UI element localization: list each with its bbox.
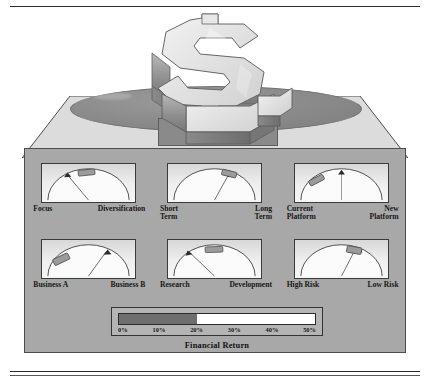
legend-tick-labels: 0% 10% 20% 30% 40% 50% [118, 326, 316, 333]
legend-tick: 40% [266, 326, 279, 333]
gauge-row-2: Business A Business B Research Developme… [25, 239, 405, 289]
gauge-row-1: Focus Diversification Short Te [25, 163, 405, 222]
gauge-left-label: Business A [33, 281, 68, 289]
bottom-rule [10, 371, 420, 372]
gauge-left-label: High Risk [287, 281, 320, 289]
gauge-caption: Business A Business B [33, 281, 145, 289]
gauge-right-label: Low Risk [368, 281, 399, 289]
gauge-current-new-platform[interactable]: Current Platform New Platform [287, 163, 397, 222]
legend-tick: 10% [152, 326, 165, 333]
gauge-face[interactable] [294, 239, 389, 279]
gauge-left-label: Current Platform [287, 205, 316, 222]
gauge-right-label: Development [229, 281, 272, 289]
gauge-business-a-b[interactable]: Business A Business B [33, 239, 143, 289]
gauge-right-label: Long Term [255, 205, 272, 222]
gauge-block [78, 169, 95, 176]
gauge-face[interactable] [41, 239, 136, 279]
gauge-face[interactable] [167, 239, 262, 279]
gauge-caption: Short Term Long Term [160, 205, 272, 222]
legend-tick: 30% [228, 326, 241, 333]
legend-box: 0% 10% 20% 30% 40% 50% [111, 307, 323, 336]
legend-scale-bar[interactable] [118, 313, 316, 325]
gauge-right-label: Business B [111, 281, 146, 289]
figure-root: Focus Diversification Short Te [0, 0, 430, 389]
legend-tick: 0% [118, 326, 128, 333]
gauge-dial [42, 164, 135, 202]
gauge-right-label-line2: Term [255, 212, 272, 221]
gauge-right-label: Diversification [98, 205, 146, 213]
legend-scale-fill [119, 314, 197, 324]
gauge-caption: Current Platform New Platform [287, 205, 399, 222]
plinth-highlight [92, 92, 132, 100]
gauge-research-development[interactable]: Research Development [160, 239, 270, 289]
legend-title: Financial Return [111, 341, 323, 350]
gauge-left-label: Focus [33, 205, 52, 213]
illustration-stage [0, 8, 430, 158]
bottom-rule-secondary [10, 375, 420, 376]
gauge-dial [168, 240, 261, 278]
dollar-sign-3d-icon [140, 8, 300, 156]
gauge-caption: Focus Diversification [33, 205, 145, 213]
gauge-dial [168, 164, 261, 202]
gauge-right-label-line2: Platform [370, 212, 399, 221]
gauge-panel: Focus Diversification Short Te [24, 148, 406, 353]
gauge-high-low-risk[interactable]: High Risk Low Risk [287, 239, 397, 289]
gauge-dial [295, 164, 388, 202]
top-rule [10, 6, 420, 7]
legend: 0% 10% 20% 30% 40% 50% Financial Return [111, 307, 323, 350]
gauge-dial [42, 240, 135, 278]
legend-tick: 20% [190, 326, 203, 333]
gauge-left-label: Research [160, 281, 190, 289]
gauge-caption: Research Development [160, 281, 272, 289]
gauge-face[interactable] [41, 163, 136, 203]
gauge-block [206, 246, 224, 252]
gauge-left-label-line2: Term [160, 212, 177, 221]
gauge-right-label: New Platform [370, 205, 399, 222]
gauge-left-label: Short Term [160, 205, 178, 222]
legend-tick: 50% [303, 326, 316, 333]
gauge-left-label-line2: Platform [287, 212, 316, 221]
gauge-dial [295, 240, 388, 278]
gauge-caption: High Risk Low Risk [287, 281, 399, 289]
gauge-short-long-term[interactable]: Short Term Long Term [160, 163, 270, 222]
gauge-face[interactable] [294, 163, 389, 203]
gauge-face[interactable] [167, 163, 262, 203]
gauge-focus-diversification[interactable]: Focus Diversification [33, 163, 143, 222]
